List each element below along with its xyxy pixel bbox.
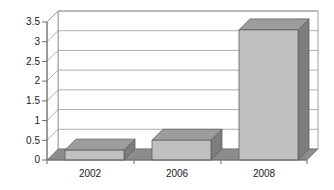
x-tick-label: 2006 [166,168,188,179]
x-tick-label: 2008 [253,168,275,179]
x-tick-label: 2002 [79,168,101,179]
x-axis-tick-labels: 2002 2006 2008 [0,0,334,190]
bar-chart: 3.5 3 2.5 2 1.5 1 0.5 0 [0,0,334,190]
